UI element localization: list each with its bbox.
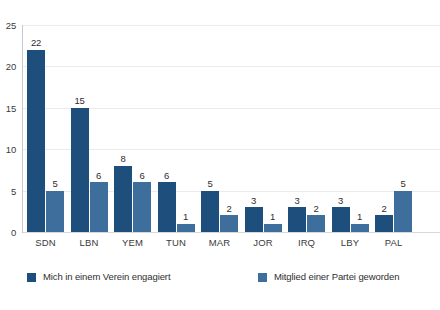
bar[interactable]: 5 — [46, 191, 64, 232]
bar-value-label: 6 — [164, 171, 169, 181]
bar[interactable]: 15 — [71, 108, 89, 232]
bar-value-label: 6 — [139, 171, 144, 181]
bar-value-label: 1 — [270, 212, 275, 222]
legend-swatch-icon-dark-blue — [27, 273, 36, 282]
chart-legend: Mich in einem Verein engagiert Mitglied … — [0, 270, 440, 290]
bar-value-label: 8 — [120, 154, 125, 164]
bar[interactable]: 1 — [177, 224, 195, 232]
bar[interactable]: 2 — [375, 215, 393, 232]
bar[interactable]: 3 — [245, 207, 263, 232]
bar[interactable]: 1 — [264, 224, 282, 232]
bar-value-label: 3 — [338, 196, 343, 206]
bar-value-label: 3 — [251, 196, 256, 206]
bar-value-label: 1 — [357, 212, 362, 222]
bar-value-label: 5 — [207, 179, 212, 189]
y-axis-line — [22, 25, 23, 233]
gridline-20 — [22, 66, 440, 67]
bar[interactable]: 8 — [114, 166, 132, 232]
bar-value-label: 6 — [96, 171, 101, 181]
y-tick-label-5: 5 — [0, 187, 16, 197]
bar-value-label: 5 — [400, 179, 405, 189]
bar-value-label: 15 — [74, 96, 84, 106]
legend-swatch-icon-light-blue — [258, 273, 267, 282]
bar-value-label: 5 — [52, 179, 57, 189]
bar[interactable]: 6 — [90, 182, 108, 232]
bar[interactable]: 22 — [27, 50, 45, 232]
bar[interactable]: 5 — [201, 191, 219, 232]
y-tick-label-10: 10 — [0, 145, 16, 155]
bar-value-label: 2 — [381, 204, 386, 214]
bar[interactable]: 3 — [332, 207, 350, 232]
bar[interactable]: 1 — [351, 224, 369, 232]
bar-value-label: 2 — [226, 204, 231, 214]
bar-value-label: 2 — [313, 204, 318, 214]
y-tick-label-25: 25 — [0, 21, 16, 31]
bar[interactable]: 5 — [394, 191, 412, 232]
bar-chart: 22515686615231323125 25 20 15 10 5 0 Mic… — [0, 0, 440, 310]
y-tick-label-20: 20 — [0, 62, 16, 72]
bar-value-label: 1 — [183, 212, 188, 222]
bar[interactable]: 2 — [307, 215, 325, 232]
y-tick-label-15: 15 — [0, 104, 16, 114]
bar[interactable]: 6 — [133, 182, 151, 232]
x-tick-label: PAL — [366, 238, 422, 248]
plot-area: 22515686615231323125 — [22, 25, 440, 232]
bar[interactable]: 3 — [288, 207, 306, 232]
gridline-0 — [22, 232, 440, 233]
legend-label-partei: Mitglied einer Partei geworden — [274, 272, 399, 282]
bar[interactable]: 2 — [220, 215, 238, 232]
legend-label-verein: Mich in einem Verein engagiert — [43, 272, 170, 282]
gridline-25 — [22, 25, 440, 26]
legend-item-verein[interactable]: Mich in einem Verein engagiert — [27, 270, 170, 284]
y-tick-label-0: 0 — [0, 228, 16, 238]
bar-value-label: 3 — [294, 196, 299, 206]
legend-item-partei[interactable]: Mitglied einer Partei geworden — [258, 270, 399, 284]
bar[interactable]: 6 — [158, 182, 176, 232]
bar-value-label: 22 — [31, 38, 41, 48]
